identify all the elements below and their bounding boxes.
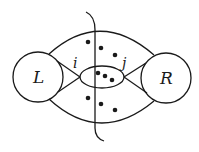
edge-j-R-bottom [124,77,147,93]
dot-bottom-3 [113,108,118,113]
dot-bottom-1 [86,96,91,101]
outer-top-arc [49,31,154,55]
dots [86,40,118,113]
dot-top-1 [86,40,91,45]
vertex-i-label: i [73,56,77,70]
dot-bottom-2 [99,102,104,107]
dot-mid-3 [110,78,115,83]
dot-top-3 [113,53,118,58]
inner-ellipse [80,66,124,88]
dot-mid-2 [103,74,108,79]
node-L-label: L [33,69,44,86]
dot-mid-1 [96,71,101,76]
vertex-j-label: j [122,56,126,70]
dot-top-2 [99,46,104,51]
diagram-canvas: L R i j [0,0,199,152]
node-R-label: R [160,70,173,87]
